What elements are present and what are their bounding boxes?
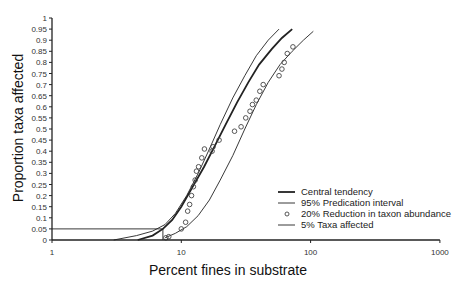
- data-point-circle: [187, 202, 192, 207]
- y-tick-label: 0.1: [36, 214, 48, 223]
- plot-lines: [52, 29, 313, 240]
- y-tick-label: 0.55: [31, 114, 47, 123]
- data-point-circle: [285, 51, 290, 56]
- data-point-circle: [194, 169, 199, 174]
- y-tick-label: 1: [43, 14, 48, 23]
- data-point-circle: [261, 82, 266, 87]
- data-point-circle: [258, 89, 263, 94]
- 95-predication-interval-lower-line: [165, 31, 313, 238]
- y-tick-label: 0.65: [31, 92, 47, 101]
- y-tick-label: 0.6: [36, 103, 48, 112]
- legend-label: Central tendency: [301, 186, 373, 197]
- legend: Central tendency95% Predication interval…: [278, 186, 451, 230]
- y-tick-label: 0.45: [31, 136, 47, 145]
- x-tick-label: 1: [50, 248, 55, 257]
- data-point-circle: [196, 164, 201, 169]
- y-tick-label: 0.9: [36, 36, 48, 45]
- y-tick-label: 0.15: [31, 203, 47, 212]
- chart-canvas: 00.050.10.150.20.250.30.350.40.450.50.55…: [0, 0, 460, 292]
- y-tick-label: 0: [43, 236, 48, 245]
- data-point-circle: [248, 109, 253, 114]
- y-tick-label: 0.4: [36, 147, 48, 156]
- 95-predication-interval-upper-line: [114, 29, 279, 240]
- x-axis-title: Percent fines in substrate: [149, 262, 307, 278]
- legend-label: 20% Reduction in taxon abundance: [301, 208, 451, 219]
- x-tick-label: 1000: [431, 248, 449, 257]
- data-point-circle: [243, 116, 248, 121]
- legend-label: 95% Predication interval: [301, 197, 403, 208]
- data-point-circle: [291, 45, 296, 50]
- y-tick-label: 0.5: [36, 125, 48, 134]
- data-point-circle: [280, 67, 285, 72]
- central-tendency-line: [138, 29, 293, 240]
- x-tick-label: 10: [177, 248, 186, 257]
- y-tick-label: 0.3: [36, 169, 48, 178]
- legend-circle-icon: [285, 212, 289, 216]
- data-point-circle: [232, 129, 237, 134]
- y-axis-title: Proportion taxa affected: [10, 54, 26, 202]
- axes: 00.050.10.150.20.250.30.350.40.450.50.55…: [31, 14, 449, 257]
- data-point-circle: [199, 156, 204, 161]
- y-tick-label: 0.95: [31, 25, 47, 34]
- plot-points: [164, 45, 296, 241]
- y-tick-label: 0.05: [31, 225, 47, 234]
- data-point-circle: [189, 193, 194, 198]
- y-tick-label: 0.2: [36, 192, 48, 201]
- data-point-circle: [277, 73, 282, 78]
- data-point-circle: [183, 220, 188, 225]
- y-tick-label: 0.7: [36, 81, 48, 90]
- data-point-circle: [239, 124, 244, 129]
- y-tick-label: 0.35: [31, 158, 47, 167]
- data-point-circle: [250, 102, 255, 107]
- legend-label: 5% Taxa affected: [301, 219, 374, 230]
- x-tick-label: 100: [304, 248, 318, 257]
- data-point-circle: [185, 209, 190, 214]
- y-tick-label: 0.8: [36, 58, 48, 67]
- y-tick-label: 0.75: [31, 70, 47, 79]
- data-point-circle: [202, 147, 207, 152]
- y-tick-label: 0.25: [31, 181, 47, 190]
- y-tick-label: 0.85: [31, 47, 47, 56]
- data-point-circle: [254, 98, 259, 103]
